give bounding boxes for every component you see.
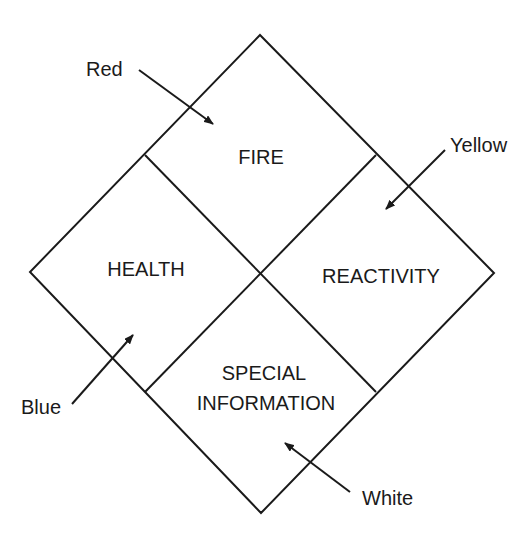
quadrant-reactivity-label: REACTIVITY	[322, 265, 440, 287]
callout-red-label: Red	[86, 58, 123, 80]
callout-blue-label: Blue	[21, 396, 61, 418]
callout-yellow-arrow-icon	[386, 150, 445, 209]
quadrant-special-info-line2: INFORMATION	[197, 392, 336, 414]
quadrant-special-info-line1: SPECIAL	[222, 362, 306, 384]
callout-white-arrow-icon	[285, 443, 350, 492]
callout-yellow-label: Yellow	[450, 134, 508, 156]
callout-red-arrow-icon	[139, 70, 213, 124]
quadrant-fire-label: FIRE	[238, 146, 284, 168]
quadrant-health-label: HEALTH	[107, 258, 184, 280]
fire-diamond-diagram: FIRE HEALTH REACTIVITY SPECIAL INFORMATI…	[0, 0, 528, 533]
callout-white-label: White	[362, 487, 413, 509]
